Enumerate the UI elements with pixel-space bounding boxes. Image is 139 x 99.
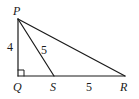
- label-point-r: R: [119, 80, 128, 94]
- label-point-p: P: [12, 4, 21, 18]
- label-point-s: S: [50, 80, 56, 94]
- label-point-q: Q: [13, 80, 22, 94]
- triangle-diagram: P Q S R 4 5 5: [0, 0, 139, 99]
- label-length-pq: 4: [7, 40, 13, 54]
- label-length-ps: 5: [41, 43, 47, 57]
- segment-ps: [18, 19, 54, 76]
- segment-pr: [18, 19, 125, 76]
- right-angle-marker: [18, 70, 24, 76]
- label-length-sr: 5: [86, 80, 92, 94]
